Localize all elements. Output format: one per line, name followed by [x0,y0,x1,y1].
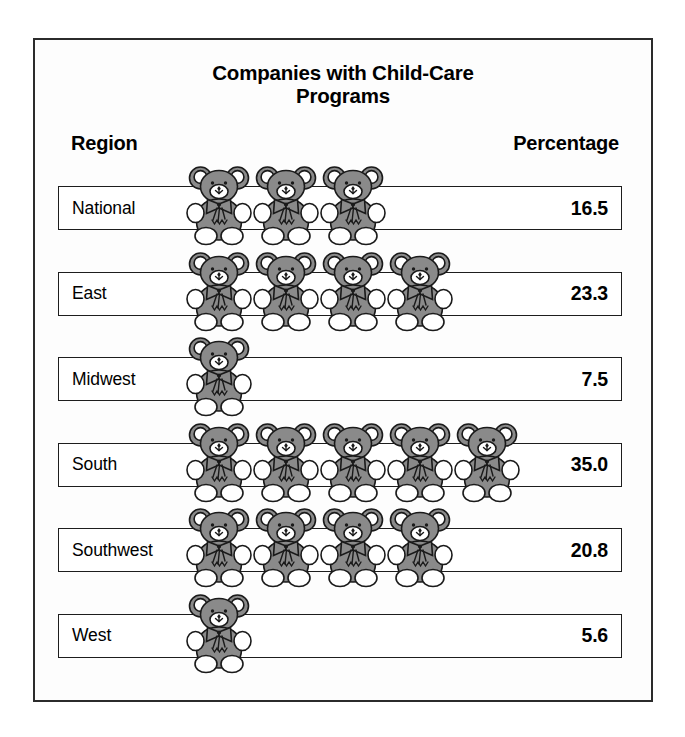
row-region-label: West [72,614,111,658]
chart-row[interactable]: South35.0 [58,443,622,487]
row-region-label: National [72,186,135,230]
row-percentage-value: 35.0 [571,443,608,487]
row-box [58,357,622,401]
row-region-label: South [72,443,117,487]
chart-row[interactable]: Midwest7.5 [58,357,622,401]
row-percentage-value: 7.5 [581,357,608,401]
chart-row[interactable]: East23.3 [58,272,622,316]
row-percentage-value: 20.8 [571,528,608,572]
chart-rows-area: National16.5 [35,40,651,700]
chart-row[interactable]: West5.6 [58,614,622,658]
row-percentage-value: 16.5 [571,186,608,230]
row-region-label: East [72,272,107,316]
row-box [58,272,622,316]
row-percentage-value: 5.6 [581,614,608,658]
row-region-label: Midwest [72,357,135,401]
chart-frame: Companies with Child-Care Programs Regio… [33,38,653,702]
row-box [58,186,622,230]
chart-row[interactable]: National16.5 [58,186,622,230]
row-region-label: Southwest [72,528,153,572]
row-percentage-value: 23.3 [571,272,608,316]
chart-row[interactable]: Southwest20.8 [58,528,622,572]
row-box [58,614,622,658]
row-box [58,443,622,487]
